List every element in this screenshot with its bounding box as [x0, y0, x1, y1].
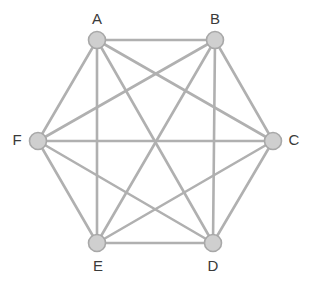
- edge-layer: [38, 40, 273, 243]
- graph-node-label-a: A: [92, 10, 102, 27]
- graph-node-d: [205, 235, 222, 252]
- graph-node-label-e: E: [93, 257, 103, 274]
- graph-edge-a-f: [38, 40, 97, 141]
- graph-node-c: [265, 133, 282, 150]
- graph-node-b: [207, 32, 224, 49]
- graph-node-a: [89, 32, 106, 49]
- graph-node-label-b: B: [210, 10, 220, 27]
- graph-node-label-c: C: [289, 131, 300, 148]
- graph-node-e: [89, 235, 106, 252]
- graph-edge-b-f: [38, 40, 215, 141]
- graph-node-label-d: D: [208, 257, 219, 274]
- graph-canvas: ABCDEF: [0, 0, 315, 284]
- graph-node-f: [30, 133, 47, 150]
- graph-figure: ABCDEF: [0, 0, 315, 284]
- graph-node-label-f: F: [12, 131, 21, 148]
- graph-edge-e-f: [38, 141, 97, 243]
- graph-edge-c-d: [213, 141, 273, 243]
